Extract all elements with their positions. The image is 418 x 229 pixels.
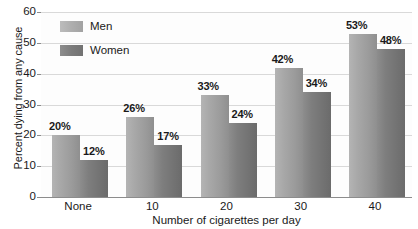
y-tick-mark <box>37 74 41 75</box>
bar-women-20 <box>229 123 257 197</box>
y-tick-label: 20 <box>6 128 36 140</box>
plot-area: 20%12%26%17%33%24%42%34%53%48% <box>41 12 412 197</box>
bar-value-label: 20% <box>49 120 70 132</box>
y-tick-label: 10 <box>6 159 36 171</box>
bar-men-30 <box>275 68 303 198</box>
bar-women-40 <box>377 49 405 197</box>
x-axis-title: Number of cigarettes per day <box>41 214 412 226</box>
x-tick-label: 30 <box>266 200 336 212</box>
bar-value-label: 42% <box>272 53 293 65</box>
bar-value-label: 33% <box>198 80 219 92</box>
axis-baseline <box>41 197 412 198</box>
y-tick-label: 30 <box>6 98 36 110</box>
x-tick-label: 20 <box>192 200 262 212</box>
bar-value-label: 26% <box>123 102 144 114</box>
legend-label: Men <box>90 20 112 32</box>
legend-label: Women <box>90 44 129 56</box>
y-tick-mark <box>37 197 41 198</box>
y-tick-label: 0 <box>6 190 36 202</box>
bar-value-label: 53% <box>346 19 367 31</box>
bar-men-10 <box>126 117 154 197</box>
legend-item-women: Women <box>60 44 129 56</box>
legend-swatch-men <box>60 21 83 32</box>
gridline <box>41 12 412 13</box>
x-tick-label: None <box>43 200 113 212</box>
x-tick-label: 10 <box>117 200 187 212</box>
y-tick-mark <box>37 105 41 106</box>
y-tick-mark <box>37 166 41 167</box>
y-tick-mark <box>37 135 41 136</box>
y-tick-mark <box>37 12 41 13</box>
y-tick-label: 40 <box>6 67 36 79</box>
bar-women-10 <box>154 145 182 197</box>
bar-value-label: 24% <box>232 108 253 120</box>
y-tick-label: 60 <box>6 5 36 17</box>
legend-swatch-women <box>60 45 83 56</box>
bar-value-label: 17% <box>157 130 178 142</box>
bar-men-20 <box>201 95 229 197</box>
bar-chart: Percent dying from any cause 20%12%26%17… <box>0 0 418 229</box>
x-tick-label: 40 <box>340 200 410 212</box>
bar-women-none <box>80 160 108 197</box>
y-tick-label: 50 <box>6 36 36 48</box>
bar-women-30 <box>303 92 331 197</box>
bar-value-label: 34% <box>306 77 327 89</box>
bar-men-40 <box>349 34 377 197</box>
y-tick-mark <box>37 43 41 44</box>
bar-value-label: 12% <box>83 145 104 157</box>
legend-item-men: Men <box>60 20 112 32</box>
bar-value-label: 48% <box>380 34 401 46</box>
bar-men-none <box>52 135 80 197</box>
